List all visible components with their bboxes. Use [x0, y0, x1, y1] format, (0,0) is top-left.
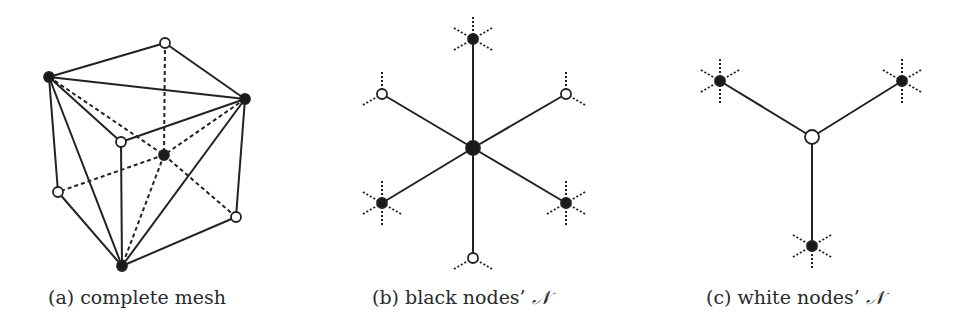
black-node	[240, 94, 250, 104]
dashed-edge	[58, 155, 164, 192]
dashed-edge	[164, 99, 245, 155]
black-node	[159, 150, 169, 160]
white-node	[468, 253, 478, 263]
solid-edge	[382, 148, 473, 203]
caption-symbol: 𝒩	[866, 286, 884, 308]
black-node	[807, 241, 817, 251]
diagram-canvas	[0, 0, 960, 334]
black-node	[377, 198, 387, 208]
caption-black-nodes-neighborhood: (b) black nodes’ 𝒩	[372, 286, 550, 309]
solid-edge	[121, 142, 122, 266]
solid-edge	[49, 77, 121, 142]
panel-white-nodes-neighborhood	[701, 59, 921, 268]
dashed-edge	[164, 155, 236, 217]
white-node	[561, 89, 571, 99]
solid-edge	[812, 81, 902, 137]
panel-complete-mesh	[44, 38, 250, 271]
black-node	[466, 141, 480, 155]
solid-edge	[121, 99, 245, 142]
black-node	[117, 261, 127, 271]
dashed-edge	[122, 155, 164, 266]
solid-edge	[473, 148, 566, 203]
white-node	[231, 212, 241, 222]
caption-text: (c) white nodes’	[706, 286, 866, 308]
solid-edge	[49, 77, 122, 266]
black-node	[44, 72, 54, 82]
white-node	[377, 89, 387, 99]
dashed-edge	[164, 43, 165, 155]
caption-text: (a) complete mesh	[48, 286, 226, 308]
solid-edge	[720, 81, 812, 137]
solid-edge	[236, 99, 245, 217]
black-node	[468, 34, 478, 44]
black-node	[715, 76, 725, 86]
black-node	[561, 198, 571, 208]
solid-edge	[473, 94, 566, 148]
white-node	[160, 38, 170, 48]
solid-edge	[49, 77, 245, 99]
caption-symbol: 𝒩	[532, 286, 550, 308]
panel-black-nodes-neighborhood	[363, 17, 585, 269]
solid-edge	[58, 192, 122, 266]
caption-complete-mesh: (a) complete mesh	[48, 286, 226, 308]
solid-edge	[382, 94, 473, 148]
black-node	[897, 76, 907, 86]
white-node	[53, 187, 63, 197]
white-node	[116, 137, 126, 147]
white-node	[805, 130, 819, 144]
solid-edge	[49, 43, 165, 77]
solid-edge	[122, 99, 245, 266]
caption-white-nodes-neighborhood: (c) white nodes’ 𝒩	[706, 286, 884, 309]
caption-text: (b) black nodes’	[372, 286, 532, 308]
